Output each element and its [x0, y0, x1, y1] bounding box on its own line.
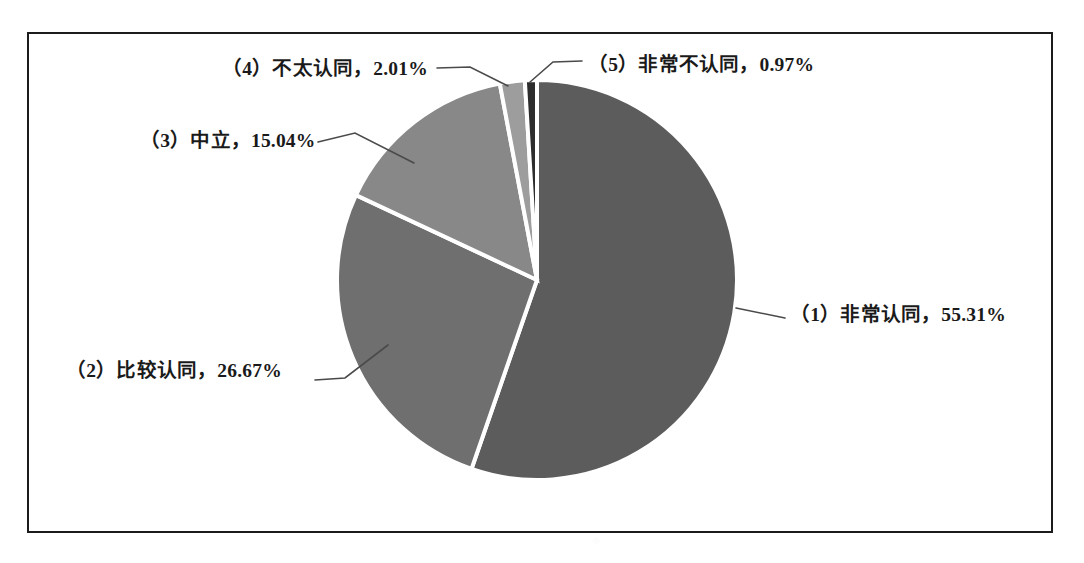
- pie-label-3: （3）中立，15.04%: [140, 124, 316, 153]
- pie-label-5: （5）非常不认同，0.97%: [588, 48, 814, 77]
- leader-line-1: [736, 308, 785, 318]
- pie-slices: [337, 80, 737, 480]
- pie-label-4: （4）不太认同，2.01%: [222, 52, 428, 81]
- pie-chart-canvas: [0, 0, 1084, 563]
- pie-label-1: （1）非常认同，55.31%: [790, 298, 1006, 327]
- pie-label-2: （2）比较认同，26.67%: [66, 354, 282, 383]
